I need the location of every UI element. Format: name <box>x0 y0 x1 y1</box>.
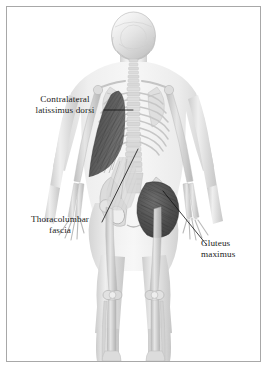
label-thoracolumbar-fascia: Thoracolumbar fascia <box>18 214 102 236</box>
label-gluteus-maximus: Gluteus maximus <box>201 238 261 260</box>
anatomical-figure-panel: Contralateral latissimus dorsi Thoracolu… <box>0 0 268 369</box>
skull <box>112 12 156 60</box>
cervical-spine <box>128 59 140 86</box>
anatomy-illustration-canvas <box>7 7 260 361</box>
label-contralateral-latissimus-dorsi: Contralateral latissimus dorsi <box>27 94 103 116</box>
